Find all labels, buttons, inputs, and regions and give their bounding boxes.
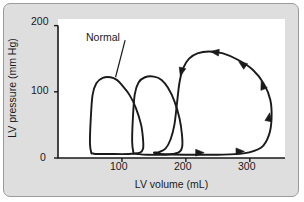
x-tick-label-2: 300: [238, 161, 256, 172]
normal-leader-line: [116, 40, 126, 77]
y-tick-label-1: 100: [31, 85, 49, 96]
x-tick-label-1: 200: [174, 161, 192, 172]
x-axis-title: LV volume (mL): [58, 178, 285, 190]
direction-arrows: [179, 49, 271, 156]
y-tick-label-0: 0: [40, 152, 46, 163]
x-tick-label-0: 100: [110, 161, 128, 172]
chart-canvas: [0, 0, 304, 202]
pv-loop-2: [154, 51, 272, 154]
y-axis-title: LV pressure (mm Hg): [6, 28, 18, 148]
flow-arrow-2-5: [210, 49, 219, 56]
flow-arrow-2-2: [265, 113, 272, 122]
annotation-leader-line: [116, 40, 126, 77]
flow-arrow-2-6: [179, 67, 186, 76]
y-tick-label-2: 200: [31, 16, 49, 27]
figure-root: 0 100 200 100 200 300 LV pressure (mm Hg…: [0, 0, 304, 202]
normal-curve-label: Normal: [86, 31, 120, 43]
flow-arrow-2-4: [239, 62, 248, 70]
